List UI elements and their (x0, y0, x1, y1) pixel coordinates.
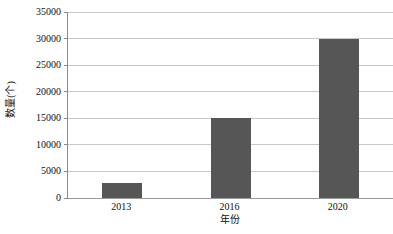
y-axis-tick-label: 25000 (36, 60, 61, 70)
x-axis-tick-label: 2013 (111, 201, 131, 212)
y-axis-title: 数量(个) (0, 0, 18, 198)
x-axis-tick-label: 2016 (220, 201, 240, 212)
y-axis-tick-label: 15000 (36, 113, 61, 123)
y-axis-tick-label: 5000 (41, 166, 61, 176)
y-axis-tick-label: 35000 (36, 7, 61, 17)
plot-area (67, 12, 393, 198)
y-axis-tick-label: 30000 (36, 34, 61, 44)
y-axis-tick-label: 10000 (36, 140, 61, 150)
y-axis-title-label: 数量(个) (2, 81, 17, 118)
x-axis-title: 年份 (67, 214, 392, 226)
y-axis-tick-labels: 05000100001500020000250003000035000 (18, 12, 64, 198)
bars-group (68, 12, 393, 198)
bar (319, 39, 359, 198)
y-axis-tick-label: 0 (56, 193, 61, 203)
bar (102, 183, 142, 198)
x-axis-tick-label: 2020 (328, 201, 348, 212)
x-axis-tick-labels: 201320162020 (67, 199, 392, 215)
y-axis-tick-label: 20000 (36, 87, 61, 97)
bar (211, 118, 251, 198)
